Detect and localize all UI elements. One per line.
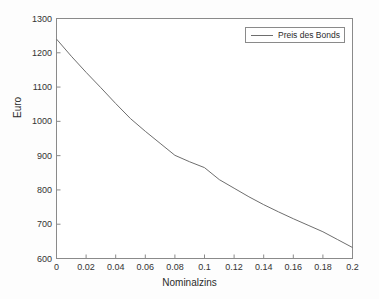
- plot-area-box: [57, 19, 353, 259]
- x-tick-label: 0.18: [314, 262, 332, 272]
- x-tick-label: 0.04: [107, 262, 125, 272]
- legend: Preis des Bonds: [245, 27, 345, 43]
- legend-line-swatch: [251, 35, 273, 36]
- legend-label: Preis des Bonds: [278, 30, 340, 40]
- figure: 6007008009001000110012001300 00.020.040.…: [0, 0, 379, 299]
- x-tick-label: 0.14: [255, 262, 273, 272]
- x-tick-label: 0.12: [225, 262, 243, 272]
- x-tick-label: 0: [54, 262, 59, 272]
- y-tick-label: 1000: [20, 116, 52, 126]
- y-tick-label: 1200: [20, 48, 52, 58]
- x-tick-label: 0.02: [77, 262, 95, 272]
- y-tick-label: 800: [20, 185, 52, 195]
- y-axis-title: Euro: [12, 97, 23, 118]
- x-tick-label: 0.08: [166, 262, 184, 272]
- x-tick-label: 0.16: [285, 262, 303, 272]
- y-tick-label: 600: [20, 254, 52, 264]
- y-tick-label: 1300: [20, 14, 52, 24]
- legend-entry-preis-des-bonds: Preis des Bonds: [246, 28, 344, 42]
- y-tick-label: 700: [20, 219, 52, 229]
- y-tick-label: 900: [20, 151, 52, 161]
- x-tick-label: 0.1: [198, 262, 211, 272]
- plot-canvas: [0, 0, 379, 299]
- y-tick-label: 1100: [20, 82, 52, 92]
- x-tick-label: 0.2: [346, 262, 359, 272]
- x-axis-title: Nominalzins: [0, 277, 379, 288]
- x-tick-label: 0.06: [137, 262, 155, 272]
